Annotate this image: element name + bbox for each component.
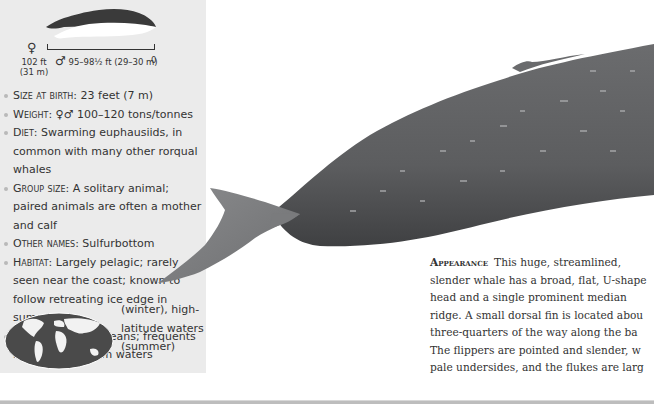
size-comparison-chart: ♀ 102 ft (31 m) ♂ 95–98½ ft (29–30 m) 0: [0, 0, 206, 80]
fact-panel: ♀ 102 ft (31 m) ♂ 95–98½ ft (29–30 m) 0 …: [0, 0, 206, 373]
distribution-continued: (winter), high- latitude waters (summer): [121, 301, 204, 357]
fact-weight: Weight: ♀♂ 100–120 tons/tonnes: [4, 106, 204, 125]
fact-size-at-birth: Size at birth: 23 feet (7 m): [4, 87, 204, 106]
scale-zero-label: 0: [151, 55, 156, 65]
fact-group-size: Group size: A solitary animal; paired an…: [4, 180, 204, 236]
world-map-icon: [4, 311, 114, 371]
appearance-paragraph: AppearanceThis huge, streamlined, slende…: [430, 254, 654, 377]
fact-diet: Diet: Swarming euphausiids, in common wi…: [4, 124, 204, 180]
bullet-icon: [4, 242, 8, 246]
male-icon: ♂: [55, 54, 66, 68]
appearance-heading: Appearance: [430, 256, 488, 268]
female-icon: ♀: [27, 40, 37, 55]
bullet-icon: [4, 131, 8, 135]
male-length: ♂ 95–98½ ft (29–30 m): [55, 54, 158, 68]
page-divider: [0, 400, 654, 404]
bullet-icon: [4, 261, 8, 265]
whale-silhouette-icon: [44, 5, 159, 43]
female-length: 102 ft (31 m): [14, 57, 54, 77]
bullet-icon: [4, 113, 8, 117]
scale-bar: [47, 44, 155, 50]
bullet-icon: [4, 187, 8, 191]
distribution-map-row: (winter), high- latitude waters (summer): [4, 301, 204, 371]
bullet-icon: [4, 94, 8, 98]
fact-other-names: Other names: Sulfurbottom: [4, 235, 204, 254]
